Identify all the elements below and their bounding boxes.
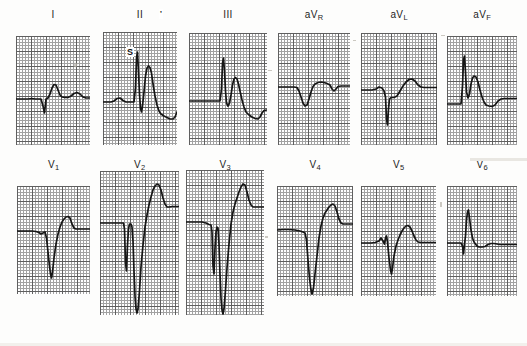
ecg-waveform-path xyxy=(186,184,264,314)
ecg-trace-I xyxy=(16,36,90,145)
ecg-trace-V5 xyxy=(361,186,436,296)
scan-speck xyxy=(265,236,268,238)
ecg-panel-aVR xyxy=(278,33,350,145)
lead-label-V4: V4 xyxy=(277,158,353,170)
lead-label-I-main: I xyxy=(51,9,54,20)
ecg-panel-aVF xyxy=(447,36,517,145)
ecg-waveform-path xyxy=(447,210,517,254)
scan-speck xyxy=(353,40,356,41)
lead-label-V5: V5 xyxy=(361,158,436,170)
ecg-panel-aVL xyxy=(361,33,437,145)
scan-edge-strip xyxy=(470,158,527,161)
lead-label-aVR: aVR xyxy=(278,8,350,20)
lead-label-II-main: II xyxy=(137,9,143,20)
ecg-panel-V4 xyxy=(277,186,353,296)
lead-label-aVL-sub: L xyxy=(403,13,407,22)
ecg-trace-aVL xyxy=(361,33,437,145)
scan-speck xyxy=(268,70,272,71)
annotation-s-marker: S xyxy=(126,47,134,57)
ecg-waveform-path xyxy=(277,204,353,294)
lead-label-aVL: aVL xyxy=(361,8,437,20)
lead-label-aVR-main: aV xyxy=(305,9,318,20)
ecg-waveform-path xyxy=(278,82,350,106)
lead-label-III: III xyxy=(189,8,267,20)
lead-label-II: II xyxy=(103,8,177,20)
ecg-panel-V3 xyxy=(186,170,264,315)
ecg-panel-V2 xyxy=(100,171,179,315)
lead-label-V6-sub: 6 xyxy=(483,163,487,172)
lead-label-aVF-main: aV xyxy=(473,9,486,20)
ecg-trace-aVF xyxy=(447,36,517,145)
scan-speck xyxy=(441,35,445,36)
scan-speck xyxy=(440,202,442,207)
ecg-trace-V2 xyxy=(100,171,179,315)
lead-label-III-main: III xyxy=(223,9,233,20)
lead-label-V2: V2 xyxy=(100,158,179,170)
ecg-trace-V4 xyxy=(277,186,353,296)
ecg-trace-V3 xyxy=(186,170,264,315)
ecg-waveform-path xyxy=(361,79,437,125)
lead-label-aVF: aVF xyxy=(447,8,517,20)
ecg-trace-V1 xyxy=(17,186,90,294)
ecg-waveform-path xyxy=(361,226,436,275)
ecg-waveform-path xyxy=(103,52,177,119)
ecg-waveform-path xyxy=(17,217,90,279)
ecg-panel-V1 xyxy=(17,186,90,294)
lead-label-V4-sub: 4 xyxy=(316,163,320,172)
ecg-panel-III xyxy=(189,33,267,145)
ecg-waveform-path xyxy=(100,184,179,313)
ecg-waveform-path xyxy=(447,56,517,107)
lead-label-V1-main: V xyxy=(48,159,55,170)
ecg-sheet: I II III aVR aVL aVF V1 V2 V3 V4 V5 V6 S… xyxy=(0,0,527,346)
ecg-panel-V5 xyxy=(361,186,436,296)
ecg-waveform-path xyxy=(16,85,90,114)
annotation-tick-mark: ' xyxy=(159,9,163,19)
ecg-trace-II xyxy=(103,32,177,145)
lead-label-V1: V1 xyxy=(17,158,90,170)
ecg-waveform-path xyxy=(189,58,267,119)
lead-label-aVL-main: aV xyxy=(390,9,403,20)
ecg-trace-aVR xyxy=(278,33,350,145)
ecg-panel-V6 xyxy=(447,186,517,296)
lead-label-V5-sub: 5 xyxy=(400,163,404,172)
lead-label-V5-main: V xyxy=(393,159,400,170)
lead-label-V1-sub: 1 xyxy=(55,163,59,172)
lead-label-V3: V3 xyxy=(186,158,264,170)
lead-label-I: I xyxy=(16,8,90,20)
ecg-trace-III xyxy=(189,33,267,145)
lead-label-aVR-sub: R xyxy=(318,13,323,22)
lead-label-V2-main: V xyxy=(134,159,141,170)
lead-label-aVF-sub: F xyxy=(486,13,491,22)
ecg-panel-II xyxy=(103,32,177,145)
ecg-panel-I xyxy=(16,36,90,145)
ecg-trace-V6 xyxy=(447,186,517,296)
